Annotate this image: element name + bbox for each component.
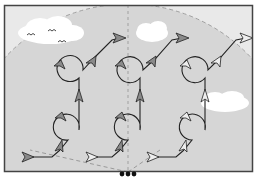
diagram-canvas [0,0,258,178]
origin-markers [120,172,137,177]
